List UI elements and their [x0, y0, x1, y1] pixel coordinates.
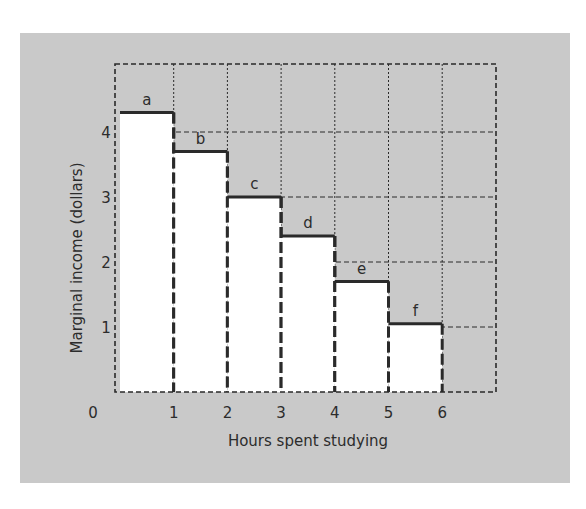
y-tick-1: 1 [101, 319, 111, 337]
x-tick-5: 5 [384, 404, 394, 422]
bar-label-c: c [250, 175, 258, 193]
x-tick-4: 4 [330, 404, 340, 422]
bar-f [389, 324, 443, 392]
x-tick-6: 6 [437, 404, 447, 422]
x-tick-2: 2 [223, 404, 233, 422]
marginal-income-chart: abcdef 01234561234 Hours spent studying … [0, 0, 586, 509]
bar-e [335, 282, 389, 393]
bar-label-f: f [413, 302, 419, 320]
bar-label-b: b [196, 130, 206, 148]
bar-c [227, 197, 281, 392]
bar-label-e: e [357, 260, 366, 278]
x-tick-0: 0 [88, 404, 98, 422]
bar-a [120, 113, 174, 393]
bar-label-d: d [303, 214, 313, 232]
y-tick-3: 3 [101, 189, 111, 207]
bar-b [174, 152, 228, 393]
y-axis-label: Marginal income (dollars) [68, 163, 86, 354]
x-tick-1: 1 [169, 404, 179, 422]
bar-label-a: a [142, 91, 151, 109]
x-axis-label: Hours spent studying [228, 432, 388, 450]
bars: abcdef [120, 91, 442, 393]
x-tick-3: 3 [276, 404, 286, 422]
bar-d [281, 236, 335, 392]
y-tick-2: 2 [101, 254, 111, 272]
y-tick-4: 4 [101, 124, 111, 142]
